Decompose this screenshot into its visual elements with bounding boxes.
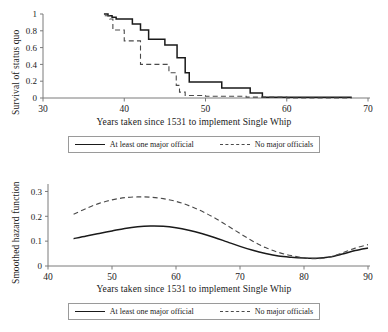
legend-entry-dashed: No major officials (220, 307, 314, 316)
y-tick-label: 0.1 (31, 236, 42, 246)
x-tick-label: 30 (38, 104, 48, 114)
legend-solid-label: At least one major official (110, 307, 194, 316)
x-tick-label: 40 (43, 272, 53, 282)
legend-dashed-label: No major officials (255, 140, 314, 149)
x-tick-label: 70 (235, 272, 245, 282)
legend-entry-dashed: No major officials (220, 140, 314, 149)
x-tick-label: 50 (201, 104, 211, 114)
figure-container: 00.20.40.60.813040506070 Survival of sta… (0, 0, 388, 332)
y-tick-label: 0.2 (31, 212, 42, 222)
y-tick-label: 0.4 (26, 60, 38, 70)
series-line-dashed (105, 16, 352, 98)
hazard-x-axis-title: Years taken since 1531 to implement Sing… (0, 284, 388, 294)
hazard-plot: 00.10.20.3405060708090 (0, 166, 388, 286)
y-tick-label: 0.6 (26, 43, 38, 53)
hazard-y-axis-title: Smoothed hazard function (11, 181, 21, 284)
y-tick-label: 0.2 (26, 76, 37, 86)
x-tick-label: 90 (363, 272, 373, 282)
legend-solid-label: At least one major official (110, 140, 194, 149)
series-line-solid (104, 14, 352, 97)
panel-survival: 00.20.40.60.813040506070 Survival of sta… (0, 0, 388, 166)
survival-legend: At least one major official No major off… (68, 136, 320, 153)
survival-x-axis-title: Years taken since 1531 to implement Sing… (0, 117, 388, 127)
panel-hazard: 00.10.20.3405060708090 Smoothed hazard f… (0, 166, 388, 332)
x-tick-label: 60 (171, 272, 181, 282)
legend-entry-solid: At least one major official (75, 140, 194, 149)
survival-y-axis-title: Survival of status quo (11, 30, 21, 115)
y-tick-label: 1 (33, 9, 38, 19)
y-tick-label: 0 (33, 93, 38, 103)
legend-dashed-line-icon (220, 311, 250, 312)
legend-entry-solid: At least one major official (75, 307, 194, 316)
x-tick-label: 60 (282, 104, 292, 114)
hazard-legend: At least one major official No major off… (68, 303, 320, 320)
x-tick-label: 50 (107, 272, 117, 282)
x-tick-label: 40 (120, 104, 130, 114)
y-tick-label: 0.3 (31, 187, 43, 197)
x-tick-label: 70 (363, 104, 373, 114)
legend-solid-line-icon (75, 144, 105, 145)
survival-plot: 00.20.40.60.813040506070 (0, 0, 388, 120)
series-line-dashed (74, 197, 368, 259)
legend-dashed-label: No major officials (255, 307, 314, 316)
x-tick-label: 80 (299, 272, 309, 282)
y-tick-label: 0.8 (26, 26, 38, 36)
legend-solid-line-icon (75, 311, 105, 312)
legend-dashed-line-icon (220, 144, 250, 145)
series-line-solid (74, 226, 368, 258)
y-tick-label: 0 (38, 261, 43, 271)
